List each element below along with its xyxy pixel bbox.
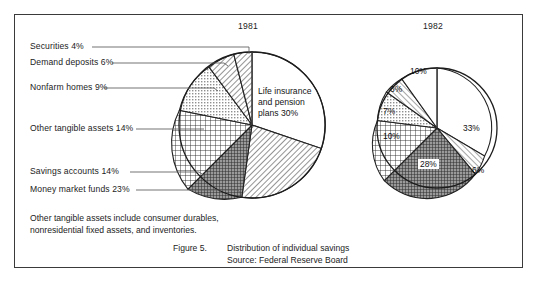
pct-1982-10-savings: 10%: [383, 131, 400, 141]
pct-1982-6-nonfarm: 6%: [390, 84, 402, 94]
inner-label-life-insurance-line3: plans 30%: [258, 108, 298, 119]
label-nonfarm-homes: Nonfarm homes 9%: [30, 82, 108, 93]
footnote-line2: nonresidential fixed assets, and invento…: [30, 225, 197, 237]
pct-1982-28: 28%: [418, 159, 439, 169]
label-securities: Securities 4%: [30, 41, 84, 52]
inner-label-life-insurance-line2: and pension: [258, 97, 305, 108]
label-savings-accounts: Savings accounts 14%: [30, 166, 119, 177]
pct-1982-6-securities: 6%: [472, 165, 484, 175]
year-label-1982: 1982: [423, 21, 443, 31]
label-other-tangible-assets: Other tangible assets 14%: [30, 123, 133, 134]
label-demand-deposits: Demand deposits 6%: [30, 57, 114, 68]
figure-root: 1981 1982 Securities 4% Demand deposits …: [0, 0, 539, 291]
pct-1982-7: 7%: [383, 106, 395, 116]
pct-1982-33: 33%: [463, 123, 480, 133]
pct-1982-10-demand: 10%: [410, 66, 427, 76]
year-label-1981: 1981: [238, 21, 258, 31]
caption-source: Source: Federal Reserve Board: [227, 255, 348, 267]
inner-label-life-insurance-line1: Life insurance: [258, 86, 312, 97]
caption-number: Figure 5.: [173, 243, 207, 255]
label-money-market-funds: Money market funds 23%: [30, 184, 130, 195]
caption-title: Distribution of individual savings: [227, 243, 349, 255]
footnote-line1: Other tangible assets include consumer d…: [30, 213, 219, 225]
